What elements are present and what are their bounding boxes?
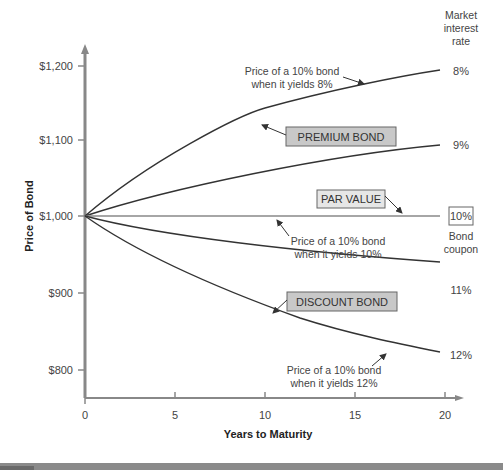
svg-text:DISCOUNT BOND: DISCOUNT BOND xyxy=(296,296,388,308)
svg-text:PAR VALUE: PAR VALUE xyxy=(321,193,381,205)
bond-coupon-label: coupon xyxy=(444,243,479,255)
y-axis xyxy=(81,44,89,398)
rate-label-11: 11% xyxy=(450,284,471,296)
annotation-yield-8: Price of a 10% bond when it yields 8% xyxy=(245,65,364,90)
svg-text:PREMIUM BOND: PREMIUM BOND xyxy=(298,131,385,143)
y-axis-title: Price of Bond xyxy=(23,180,35,252)
svg-text:when it yields 8%: when it yields 8% xyxy=(250,78,332,90)
x-tick-label: 10 xyxy=(259,409,271,421)
svg-text:Price of a 10% bond: Price of a 10% bond xyxy=(245,65,340,77)
curve-9pct xyxy=(85,145,440,216)
rate-labels: 8% 9% 10% Bond coupon 11% 12% xyxy=(444,65,479,361)
x-tick-label: 20 xyxy=(439,409,451,421)
annotation-yield-10: Price of a 10% bond when it yields 10% xyxy=(277,220,385,260)
rate-label-9: 9% xyxy=(453,139,469,151)
y-tick-labels: $1,200 $1,100 $1,000 $900 $800 xyxy=(39,60,73,376)
x-tick-label: 5 xyxy=(172,409,178,421)
svg-text:Price of a 10% bond: Price of a 10% bond xyxy=(291,235,386,247)
discount-bond-label: DISCOUNT BOND xyxy=(273,292,397,313)
y-tick-label: $1,100 xyxy=(39,134,73,146)
annotation-yield-12: Price of a 10% bond when it yields 12% xyxy=(287,354,386,389)
market-rate-header: Market interest rate xyxy=(444,9,479,47)
premium-bond-label: PREMIUM BOND xyxy=(262,125,396,146)
rate-label-10: 10% xyxy=(450,210,472,222)
x-tick-label: 15 xyxy=(349,409,361,421)
curve-11pct xyxy=(85,216,440,262)
x-tick-label: 0 xyxy=(82,409,88,421)
bond-price-chart: $1,200 $1,100 $1,000 $900 $800 0 5 10 15… xyxy=(0,0,503,470)
y-tick-label: $900 xyxy=(49,287,73,299)
x-axis xyxy=(85,395,464,401)
svg-text:when it yields 10%: when it yields 10% xyxy=(294,248,382,260)
par-value-label: PAR VALUE xyxy=(317,190,402,213)
x-tick-labels: 0 5 10 15 20 xyxy=(82,409,451,421)
rate-label-8: 8% xyxy=(453,65,469,77)
curve-12pct xyxy=(85,216,440,352)
svg-text:when it yields 12%: when it yields 12% xyxy=(290,377,378,389)
bond-coupon-label: Bond xyxy=(449,230,474,242)
y-tick-label: $1,000 xyxy=(39,210,73,222)
y-tick-label: $1,200 xyxy=(39,60,73,72)
rate-label-12: 12% xyxy=(450,349,472,361)
y-tick-label: $800 xyxy=(49,364,73,376)
svg-text:Market: Market xyxy=(445,9,477,21)
svg-text:rate: rate xyxy=(452,35,470,47)
svg-text:Price of a 10% bond: Price of a 10% bond xyxy=(287,364,382,376)
x-axis-title: Years to Maturity xyxy=(224,428,314,440)
bottom-divider xyxy=(0,463,503,470)
svg-text:interest: interest xyxy=(444,22,479,34)
